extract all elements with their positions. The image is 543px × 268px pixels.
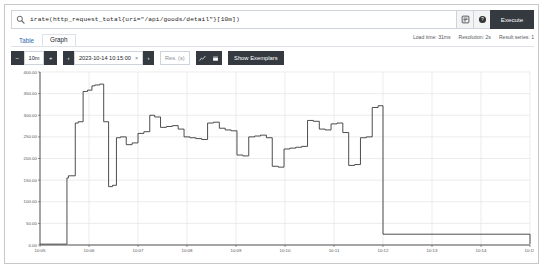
svg-text:10:08: 10:08	[182, 248, 194, 253]
result-series-stat: Result series: 1	[499, 34, 534, 40]
svg-text:150.00: 150.00	[24, 178, 38, 183]
query-input[interactable]: irate(http_request_total{uri="/api/goods…	[11, 10, 456, 29]
timeseries-chart: 0.0050.00100.00150.00200.00250.00300.003…	[11, 69, 534, 259]
svg-text:250.00: 250.00	[24, 134, 38, 139]
execute-button[interactable]: Execute	[490, 10, 534, 29]
svg-text:10:14: 10:14	[476, 248, 488, 253]
resolution-input[interactable]: Res. (s)	[160, 51, 190, 65]
range-input[interactable]: 10m	[24, 51, 45, 65]
svg-text:10:06: 10:06	[84, 248, 96, 253]
query-stats: Load time: 31ms Resolution: 2s Result se…	[413, 34, 534, 40]
svg-text:10:10: 10:10	[280, 248, 292, 253]
clear-time-icon[interactable]: ×	[135, 55, 138, 61]
list-icon	[461, 15, 470, 24]
svg-text:400.00: 400.00	[24, 70, 38, 75]
metrics-explorer-button[interactable]	[456, 10, 473, 29]
svg-text:300.00: 300.00	[24, 113, 38, 118]
time-control-group: ‹ 2023-10-14 10:15:00 × ›	[63, 51, 154, 65]
tab-graph[interactable]: Graph	[42, 34, 76, 47]
resolution-stat: Resolution: 2s	[459, 34, 491, 40]
chart-type-toggle-group	[196, 51, 222, 65]
stacked-chart-icon	[212, 55, 219, 62]
search-icon	[16, 15, 25, 24]
prometheus-expression-browser: irate(http_request_total{uri="/api/goods…	[4, 4, 539, 264]
graph-panel[interactable]: 0.0050.00100.00150.00200.00250.00300.003…	[11, 69, 534, 259]
svg-text:10:07: 10:07	[133, 248, 145, 253]
load-time-stat: Load time: 31ms	[413, 34, 451, 40]
graph-controls: − 10m + ‹ 2023-10-14 10:15:00 × › Res. (…	[11, 51, 284, 65]
increase-range-button[interactable]: +	[44, 51, 57, 65]
svg-text:50.00: 50.00	[26, 221, 38, 226]
grid-lines	[40, 72, 530, 245]
range-control-group: − 10m +	[11, 51, 57, 65]
svg-text:100.00: 100.00	[24, 199, 38, 204]
y-axis: 0.0050.00100.00150.00200.00250.00300.003…	[24, 70, 40, 248]
tabs-divider	[11, 46, 534, 47]
end-time-value: 2023-10-14 10:15:00	[79, 55, 131, 61]
line-chart-toggle[interactable]	[196, 51, 209, 65]
help-button[interactable]: ?	[473, 10, 490, 29]
stacked-chart-toggle[interactable]	[209, 51, 222, 65]
query-bar: irate(http_request_total{uri="/api/goods…	[11, 10, 534, 29]
svg-text:10:05: 10:05	[35, 248, 47, 253]
line-chart-icon	[199, 55, 206, 62]
svg-text:?: ?	[481, 16, 484, 22]
svg-text:10:11: 10:11	[329, 248, 340, 253]
x-axis: 10:0510:0610:0710:0810:0910:1010:1110:12…	[35, 245, 535, 253]
query-expression-text: irate(http_request_total{uri="/api/goods…	[30, 16, 240, 23]
previous-time-button[interactable]: ‹	[63, 51, 74, 65]
svg-text:350.00: 350.00	[24, 91, 38, 96]
svg-text:10:12: 10:12	[378, 248, 390, 253]
result-view-tabs: Table Graph Load time: 31ms Resolution: …	[11, 33, 534, 47]
svg-text:10:09: 10:09	[231, 248, 243, 253]
svg-text:10:15: 10:15	[525, 248, 535, 253]
svg-text:0.00: 0.00	[28, 243, 37, 248]
question-circle-icon: ?	[478, 15, 487, 24]
end-time-input[interactable]: 2023-10-14 10:15:00 ×	[74, 51, 143, 65]
next-time-button[interactable]: ›	[143, 51, 154, 65]
show-exemplars-button[interactable]: Show Exemplars	[228, 51, 284, 65]
svg-text:10:13: 10:13	[427, 248, 439, 253]
svg-text:200.00: 200.00	[24, 156, 38, 161]
decrease-range-button[interactable]: −	[11, 51, 24, 65]
